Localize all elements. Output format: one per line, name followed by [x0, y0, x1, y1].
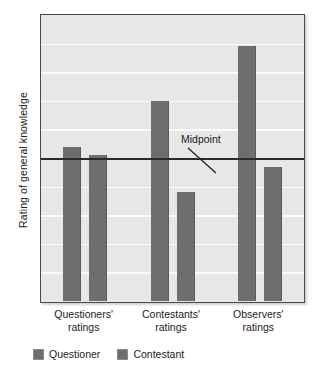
bar — [264, 167, 282, 301]
gridline — [41, 129, 304, 131]
y-axis-title: Rating of general knowledge — [17, 92, 29, 228]
midpoint-annotation-label: Midpoint — [181, 133, 221, 145]
x-axis-category-label: Observers'ratings — [210, 308, 306, 333]
bar — [89, 155, 107, 301]
chart-legend: QuestionerContestant — [33, 348, 184, 360]
gridline — [41, 72, 304, 74]
midpoint-leader-line — [186, 146, 220, 176]
category-label-line2: ratings — [123, 321, 219, 334]
category-label-line1: Questioners' — [36, 308, 132, 321]
legend-item-label: Questioner — [49, 348, 100, 360]
legend-swatch-icon — [117, 349, 128, 360]
plot-area: Midpoint — [40, 14, 305, 303]
x-axis-category-label: Contestants'ratings — [123, 308, 219, 333]
gridline — [41, 101, 304, 103]
bar — [238, 46, 256, 301]
bar — [177, 192, 195, 301]
x-axis-category-label: Questioners'ratings — [36, 308, 132, 333]
legend-item: Contestant — [117, 348, 184, 360]
midpoint-reference-line — [41, 158, 304, 160]
gridline — [41, 44, 304, 46]
bar-chart-figure: Rating of general knowledge Midpoint Que… — [0, 0, 329, 379]
category-label-line2: ratings — [36, 321, 132, 334]
legend-item-label: Contestant — [133, 348, 184, 360]
category-label-line1: Contestants' — [123, 308, 219, 321]
bar — [151, 101, 169, 301]
y-axis-title-container: Rating of general knowledge — [13, 60, 33, 260]
legend-item: Questioner — [33, 348, 100, 360]
bar — [63, 147, 81, 301]
legend-swatch-icon — [33, 349, 44, 360]
category-label-line2: ratings — [210, 321, 306, 334]
category-label-line1: Observers' — [210, 308, 306, 321]
